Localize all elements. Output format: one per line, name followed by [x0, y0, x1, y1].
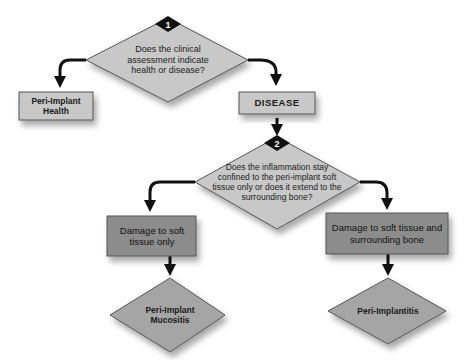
mucositis-label: Peri-Implant Mucositis	[136, 300, 204, 330]
soft-tissue-only-label: Damage to soft tissue only	[116, 216, 188, 256]
badge-number-2: 2	[274, 139, 279, 149]
question-1-text: Does the clinical assessment indicate he…	[118, 38, 218, 82]
soft-tissue-bone-label: Damage to soft tissue and surrounding bo…	[330, 213, 444, 254]
implantitis-label: Peri-Implantitis	[338, 302, 438, 320]
edge-q1-health	[60, 60, 86, 82]
edge-q2-soft-bone	[360, 182, 387, 204]
question-2-text: Does the inflammation stay confined to t…	[212, 156, 342, 208]
edge-q1-disease	[248, 60, 276, 80]
flowchart: 1 2 Does the clinical assessment indicat…	[0, 0, 466, 360]
edge-q2-soft-only	[150, 182, 195, 206]
badge-number-1: 1	[165, 20, 170, 30]
health-label: Peri-Implant Health	[19, 92, 93, 120]
disease-label: DISEASE	[239, 92, 315, 114]
